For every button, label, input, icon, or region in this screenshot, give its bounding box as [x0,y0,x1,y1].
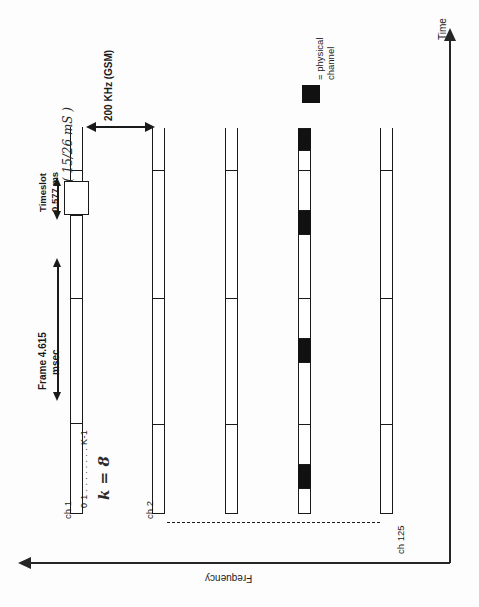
channel-slot-divider [225,424,239,464]
timeslot-dimension-arrow-bottom-icon [53,211,61,220]
channel-slot-divider [380,424,394,464]
channel-slot-divider [152,424,166,464]
channel-slot-divider [298,488,312,514]
carrier-spacing-arrow-left-icon [86,122,96,132]
legend-swatch-physical-channel [302,85,320,103]
channel-slot-divider [152,170,166,210]
legend-label-line2: channel [326,47,336,80]
physical-channel-slot[interactable] [298,338,312,362]
frame-duration-unit: msec [51,349,61,375]
channel-bar-ch125[interactable] [380,128,393,514]
channel-slot-divider [70,298,84,338]
channel-slot-divider [380,170,394,210]
channel-slot-divider [298,150,312,170]
slot-index-label: 0 1 . . . . . . . . K-1 [80,430,89,508]
timeslot-callout-box[interactable] [64,181,89,215]
time-axis-label: Time [438,18,448,40]
frequency-axis-label: Frequency [205,573,252,583]
timeslot-label: Timeslot [38,173,48,212]
channel-bar-mid-b[interactable] [298,128,311,514]
channel-label-ch125: ch 125 [396,525,406,554]
channel-label-ch1: ch 1 [63,501,73,519]
time-axis-line [449,40,451,563]
channel-slot-divider [225,170,239,210]
channel-bar-ch2[interactable] [152,128,165,514]
frame-duration-label: Frame 4.615 [38,332,48,390]
timeslot-hand-note: ( 15/26 mS ) [62,107,74,182]
channel-slot-divider [225,298,239,338]
k-value-annotation: k = 8 [97,456,112,500]
physical-channel-slot[interactable] [298,210,312,234]
channel-slot-divider [380,298,394,338]
channel-slot-divider [70,215,84,255]
channel-slot-divider [152,298,166,338]
frame-dimension-arrow-bottom-icon [53,392,61,401]
figure-canvas: Frequency Time ch 1 0 1 . . . . . . . . … [0,0,479,607]
channel-range-dashed-connector [167,522,380,523]
frequency-axis-arrow-icon [18,557,31,569]
channel-slot-divider [298,170,312,210]
carrier-spacing-shaft [95,126,145,128]
channel-bar-mid-a[interactable] [225,128,238,514]
physical-channel-slot[interactable] [298,464,312,488]
timeslot-value-label: 0.577 ms [50,172,60,212]
channel-slot-divider [298,424,312,464]
frame-dimension-arrow-top-icon [53,258,61,267]
legend-label-line1: = physical [315,37,325,80]
frequency-axis-line [30,562,450,564]
channel-slot-divider [298,298,312,338]
carrier-spacing-label: 200 KHz (GSM) [104,50,114,121]
physical-channel-slot[interactable] [298,128,312,150]
channel-slot-divider [298,362,312,424]
channel-slot-divider [298,234,312,298]
channel-label-ch2: ch 2 [145,501,155,519]
